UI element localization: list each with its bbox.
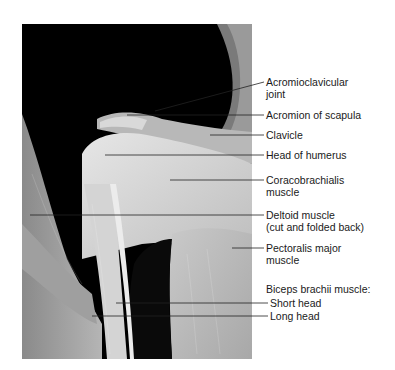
dissection-photo — [22, 24, 252, 359]
label-clavicle: Clavicle — [266, 129, 303, 141]
label-humeral-head: Head of humerus — [266, 149, 347, 161]
label-deltoid: Deltoid muscle (cut and folded back) — [266, 209, 364, 233]
label-short-head: Short head — [270, 297, 321, 309]
label-acromion: Acromion of scapula — [266, 109, 361, 121]
label-ac-joint: Acromioclavicular joint — [266, 76, 348, 100]
photo-illustration — [22, 24, 252, 359]
anatomy-figure: Acromioclavicular joint Acromion of scap… — [0, 0, 395, 370]
label-biceps-heading: Biceps brachii muscle: — [266, 283, 370, 295]
label-pectoralis: Pectoralis major muscle — [266, 242, 341, 266]
label-coracobrachialis: Coracobrachialis muscle — [266, 174, 344, 198]
label-long-head: Long head — [270, 310, 320, 322]
